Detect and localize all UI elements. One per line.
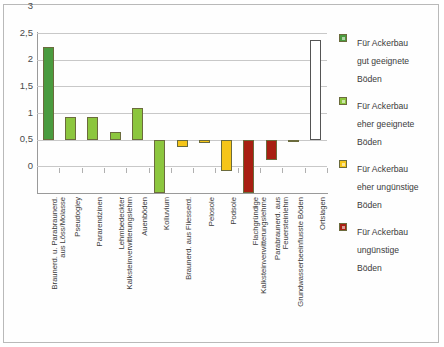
legend-swatch-icon xyxy=(339,223,347,231)
x-axis-tick xyxy=(104,168,105,173)
chart-frame: 00,511,522,53 Braunerd. u. Parabraunerd.… xyxy=(3,4,439,343)
gridline xyxy=(37,166,327,167)
x-axis-category-label: Parabraunerd. ausFeuersteinlehm xyxy=(274,197,291,260)
x-axis-category-label: Auenböden xyxy=(141,197,149,236)
y-axis-tick-label: 2,5 xyxy=(20,26,33,37)
y-axis-tick-label: 0,5 xyxy=(20,133,33,144)
bar xyxy=(154,140,165,193)
x-axis-tick xyxy=(82,168,83,173)
y-axis-tick-labels: 00,511,522,53 xyxy=(4,5,33,205)
bar xyxy=(87,117,98,139)
x-axis-category-label: Braunerd. u. Parabraunerd.aus Löss/Molas… xyxy=(51,197,68,289)
x-axis-tick xyxy=(282,168,283,173)
bar xyxy=(221,140,232,171)
x-axis-category-label: Kolluvium xyxy=(163,197,171,230)
gridline xyxy=(37,113,327,114)
x-axis-category-label: Ortslagen xyxy=(319,197,327,230)
gridline xyxy=(37,86,327,87)
legend-swatch-icon xyxy=(339,97,347,105)
bar xyxy=(310,40,321,140)
x-axis-category-label: Pseudogley xyxy=(74,197,82,237)
bar xyxy=(199,140,210,144)
bar xyxy=(266,140,277,160)
bar xyxy=(132,108,143,140)
x-axis-category-label: FlachgründigeKalksteinverwitterungslehme xyxy=(252,197,269,294)
bar xyxy=(243,140,254,193)
legend-swatch-icon xyxy=(339,160,347,168)
y-axis-tick-label: 1,5 xyxy=(20,80,33,91)
bar xyxy=(43,47,54,139)
chart-legend: Für Ackerbaugut geeigneteBödenFür Ackerb… xyxy=(337,32,437,284)
x-axis-category-label: Pelosole xyxy=(208,197,216,226)
x-axis-tick xyxy=(215,168,216,173)
gridline xyxy=(37,33,327,34)
x-axis-tick xyxy=(238,168,239,173)
x-axis-tick xyxy=(149,168,150,173)
legend-item-unguenstig[interactable]: Für AckerbauungünstigeBöden xyxy=(337,221,437,275)
bar xyxy=(288,140,299,143)
x-axis-category-label: Braunerd. aus Fliesserd. xyxy=(185,197,193,280)
legend-label: Für AckerbauungünstigeBöden xyxy=(357,227,408,273)
bar xyxy=(110,132,121,139)
x-axis-category-label: LehmbedeckterKalksteinverwitterungslehm xyxy=(118,197,135,289)
bar xyxy=(65,117,76,139)
y-axis-tick-label: 0 xyxy=(28,160,33,171)
x-axis-category-label: Pararendzinen xyxy=(96,197,104,246)
x-axis-tick xyxy=(193,168,194,173)
x-axis-tick xyxy=(327,168,328,173)
legend-item-eher-unguenstig[interactable]: Für Ackerbaueher ungünstigeBöden xyxy=(337,158,437,212)
plot-area xyxy=(37,33,327,193)
legend-label: Für Ackerbaueher geeigneteBöden xyxy=(357,101,414,147)
y-axis-tick-label: 1 xyxy=(28,106,33,117)
gridline xyxy=(37,60,327,61)
x-axis-line xyxy=(37,193,328,194)
x-axis-tick xyxy=(59,168,60,173)
x-axis-category-label: Podsole xyxy=(230,197,238,224)
legend-label: Für Ackerbaugut geeigneteBöden xyxy=(357,38,409,84)
bar xyxy=(177,140,188,147)
x-axis-tick xyxy=(126,168,127,173)
x-axis-tick xyxy=(305,168,306,173)
legend-label: Für Ackerbaueher ungünstigeBöden xyxy=(357,164,419,210)
x-axis-category-label: Grundwasserbeeinflusste Böden xyxy=(297,197,305,307)
x-axis-tick xyxy=(171,168,172,173)
legend-item-gut-geeignet[interactable]: Für Ackerbaugut geeigneteBöden xyxy=(337,32,437,86)
x-axis-tick xyxy=(260,168,261,173)
legend-swatch-icon xyxy=(339,34,347,42)
y-axis-tick-label: 3 xyxy=(28,0,33,11)
legend-item-eher-geeignet[interactable]: Für Ackerbaueher geeigneteBöden xyxy=(337,95,437,149)
x-axis-category-labels: Braunerd. u. Parabraunerd.aus Löss/Molas… xyxy=(37,197,328,347)
y-axis-tick-label: 2 xyxy=(28,53,33,64)
